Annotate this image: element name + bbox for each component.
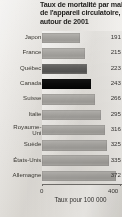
- bar-value-label: 316: [111, 126, 121, 133]
- bar-value-label: 243: [111, 80, 121, 87]
- bar-row: Allemagne372: [42, 169, 122, 184]
- bar-row-label-line-1: France: [22, 48, 41, 55]
- bar-value-label: 325: [111, 141, 121, 148]
- bar-row: Suisse266: [42, 92, 122, 107]
- bar: [42, 171, 116, 181]
- bar-row: Canada243: [42, 77, 122, 92]
- bar-row-label-line-1: Suède: [24, 140, 42, 147]
- bar-row-label-line-1: Québec: [20, 64, 41, 71]
- bar-row: Québec223: [42, 62, 122, 77]
- bar-row-label-line-1: Suisse: [23, 94, 41, 101]
- bar: [42, 94, 95, 104]
- bar-row-label-line-1: Japon: [25, 33, 42, 40]
- bar-row-label: Italie: [1, 111, 41, 118]
- bar: [42, 110, 101, 120]
- chart-figure: Taux de mortalité par maladie de l'appar…: [0, 0, 122, 217]
- bar: [42, 48, 85, 58]
- bar-row: France215: [42, 46, 122, 61]
- chart-title: Taux de mortalité par maladie de l'appar…: [40, 1, 122, 26]
- bar-row-label: Suède: [1, 141, 41, 148]
- bar-value-label: 295: [111, 111, 121, 118]
- bar-value-label: 266: [111, 95, 121, 102]
- chart-title-line-3: autour de 2001: [40, 18, 122, 26]
- bar: [42, 64, 87, 74]
- bar-value-label: 335: [111, 157, 121, 164]
- bar: [42, 140, 107, 150]
- bar-value-label: 223: [111, 65, 121, 72]
- bar-row-label-line-1: Italie: [29, 110, 42, 117]
- bar-row: Italie295: [42, 108, 122, 123]
- bar-row: Japon191: [42, 31, 122, 46]
- bar-value-label: 215: [111, 49, 121, 56]
- bar-row-label: Canada: [1, 80, 41, 87]
- bar-row: Suède325: [42, 138, 122, 153]
- bar: [42, 79, 91, 89]
- bar-row-label: États-Unis: [1, 157, 41, 164]
- bar-row-label: Japon: [1, 34, 41, 41]
- bar-row-label: Royaume-Uni: [1, 124, 41, 136]
- bar: [42, 33, 80, 43]
- bar-row-label-line-1: États-Unis: [13, 156, 41, 163]
- bar-row-label: Québec: [1, 65, 41, 72]
- bar-row-label: France: [1, 49, 41, 56]
- bar-value-label: 191: [111, 34, 121, 41]
- bar-row-label-line-1: Canada: [20, 79, 41, 86]
- bar-row-label: Allemagne: [1, 172, 41, 179]
- bar: [42, 125, 105, 135]
- x-axis-tick-label-max: 400: [108, 187, 118, 194]
- bar-row-label-line-1: Allemagne: [13, 171, 42, 178]
- bar-row-label: Suisse: [1, 95, 41, 102]
- bar-row-label-line-2: Uni: [1, 130, 41, 136]
- x-axis-line: [42, 184, 122, 185]
- x-axis-caption: Taux pour 100 000: [39, 196, 122, 203]
- x-axis-tick-max: [120, 184, 121, 186]
- x-axis-tick-label-min: 0: [40, 187, 43, 194]
- bar-value-label: 372: [111, 172, 121, 179]
- bar: [42, 155, 109, 165]
- bar-row: Royaume-Uni316: [42, 123, 122, 138]
- bar-row: États-Unis335: [42, 153, 122, 168]
